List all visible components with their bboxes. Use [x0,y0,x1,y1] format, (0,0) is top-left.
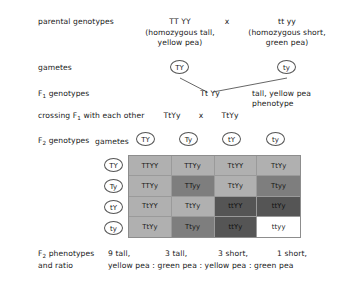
punnett-side-gamete-1: Ty [104,179,123,193]
crossing-f1-label: crossing F1 with each other [38,111,144,121]
punnett-cell: TtYY [215,156,258,176]
punnett-cell: TtYy [257,156,300,176]
f2-phen-suffix: phenotypes [46,249,94,258]
punnett-side-gamete-2: tY [104,200,123,214]
punnett-side-gamete-0: TY [104,158,123,172]
punnett-cell: Ttyy [257,176,300,196]
punnett-cell: TtYy [172,197,215,217]
punnett-top-gamete-2: tY [222,132,241,146]
f1-genotypes-label: F1 genotypes [38,89,89,99]
punnett-cell: ttYY [215,197,258,217]
f2-ratio-line: yellow pea : green pea : yellow pea : gr… [108,261,293,271]
punnett-cell: ttyy [257,217,300,237]
punnett-top-gamete-3: ty [266,132,285,146]
parental-cross-symbol: x [222,17,232,27]
punnett-square-grid: TTYY TTYy TtYY TtYy TTYy TTyy TtYy Ttyy … [128,155,301,238]
punnett-cell: TTYY [129,156,172,176]
f2-phenotypes-label: F2 phenotypes [38,249,94,259]
parental-right-genotype: tt yy [252,17,322,27]
f1-label-subscript: 1 [42,93,46,99]
punnett-cell: TTyy [172,176,215,196]
punnett-cell: TtYy [215,176,258,196]
parental-genotypes-label: parental genotypes [38,17,114,27]
parental-gamete-right: ty [277,60,296,74]
crossing-subscript: 1 [77,115,81,121]
and-ratio-label: and ratio [38,261,73,271]
parental-left-desc-line2: yellow pea) [140,38,220,48]
punnett-cell: TTYy [172,156,215,176]
f2-count-0: 9 tall, [108,249,130,259]
f2-count-3: 1 short, [277,249,307,259]
f2-label-suffix: genotypes [46,136,89,145]
punnett-cell: TTYy [129,176,172,196]
punnett-top-gamete-1: Ty [179,132,198,146]
punnett-cell: TtYY [129,197,172,217]
parental-left-desc-line1: (homozygous tall, [140,28,220,38]
f2-count-1: 3 tall, [165,249,187,259]
punnett-top-gamete-0: TY [136,132,155,146]
punnett-gametes-label: gametes [95,137,129,147]
punnett-cell: TtYy [129,217,172,237]
punnett-cell: Ttyy [172,217,215,237]
f1-phenotype-line1: tall, yellow pea [252,89,311,99]
parental-right-desc-line2: green pea) [240,38,334,48]
f2-phen-subscript: 2 [42,253,46,259]
punnett-cell: ttYy [257,197,300,217]
crossing-left-genotype: TtYy [155,111,189,121]
f1-label-suffix: genotypes [46,89,89,98]
crossing-prefix: crossing F [38,111,77,120]
f2-label-subscript: 2 [42,140,46,146]
parental-right-desc-line1: (homozygous short, [240,28,334,38]
parental-gamete-left: TY [170,60,189,74]
punnett-side-gamete-3: ty [104,221,123,235]
f1-phenotype-line2: phenotype [252,99,294,109]
crossing-suffix: with each other [81,111,145,120]
f1-genotype: Tt Yy [185,89,235,99]
f2-genotypes-label: F2 genotypes [38,136,89,146]
f2-count-2: 3 short, [218,249,248,259]
dihybrid-cross-diagram: parental genotypes TT YY (homozygous tal… [0,0,346,281]
crossing-right-genotype: TtYy [213,111,247,121]
punnett-cell: ttYy [215,217,258,237]
crossing-symbol: x [196,111,206,121]
parental-left-genotype: TT YY [148,17,212,27]
gametes-label: gametes [38,63,72,73]
